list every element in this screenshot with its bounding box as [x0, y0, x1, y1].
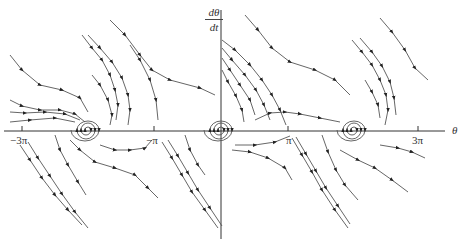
x-axis-label: θ — [452, 125, 457, 136]
tick-label-neg-3pi: −3π — [10, 135, 27, 146]
tick-label-3pi: 3π — [412, 135, 423, 146]
y-axis-denominator: dt — [210, 21, 219, 33]
trajectories — [10, 15, 428, 228]
tick-label-pi: π — [286, 135, 292, 146]
tick-label-neg-pi: −π — [146, 135, 158, 146]
phase-portrait — [0, 0, 464, 239]
y-axis-label: dθ dt — [203, 6, 225, 33]
y-axis-numerator: dθ — [209, 6, 220, 18]
